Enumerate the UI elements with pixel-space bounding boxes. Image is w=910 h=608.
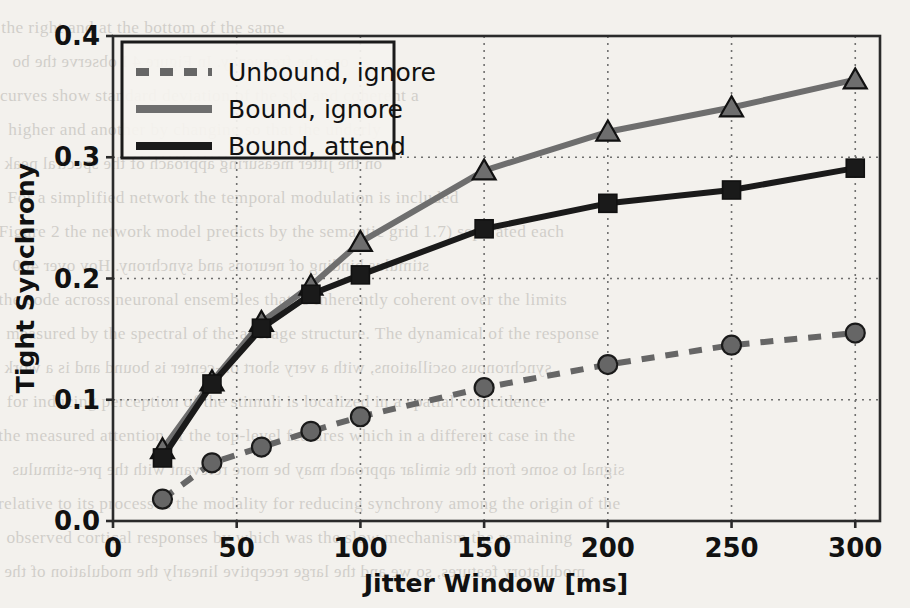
legend-item-label: Bound, ignore (228, 95, 403, 124)
legend-item-label: Bound, attend (228, 132, 406, 161)
data-point-square (475, 220, 493, 238)
x-tick-label: 150 (457, 533, 511, 563)
data-point-square (351, 266, 369, 284)
data-point-circle (202, 453, 221, 472)
x-tick-label: 0 (104, 533, 122, 563)
x-tick-labels: 050100150200250300 (104, 533, 882, 563)
series-line (162, 333, 855, 499)
chart-figure: the right and at the bottom of the sameo… (0, 0, 910, 608)
data-point-circle (475, 378, 494, 397)
data-point-square (599, 194, 617, 212)
data-point-square (153, 449, 171, 467)
legend-item-label: Unbound, ignore (228, 58, 436, 87)
x-tick-label: 300 (828, 533, 882, 563)
x-tick-label: 250 (704, 533, 758, 563)
series-line (162, 168, 855, 458)
y-tick-label: 0.1 (54, 385, 100, 415)
data-point-circle (301, 422, 320, 441)
x-tick-label: 100 (333, 533, 387, 563)
y-tick-label: 0.3 (54, 142, 100, 172)
data-point-circle (722, 336, 741, 355)
legend: Unbound, ignoreBound, ignoreBound, atten… (122, 42, 436, 161)
x-axis-label: Jitter Window [ms] (362, 569, 628, 598)
y-tick-label: 0.0 (54, 506, 100, 536)
y-tick-label: 0.2 (54, 264, 100, 294)
data-point-square (302, 285, 320, 303)
data-point-circle (598, 355, 617, 374)
data-point-square (846, 159, 864, 177)
x-tick-label: 200 (581, 533, 635, 563)
data-point-square (723, 181, 741, 199)
series-unbound-ignore (153, 324, 865, 509)
y-axis-label: Tight Synchrony (11, 163, 40, 393)
data-point-circle (351, 407, 370, 426)
y-tick-labels: 0.00.10.20.30.4 (54, 21, 100, 536)
y-tick-label: 0.4 (54, 21, 100, 51)
chart-svg: 050100150200250300 0.00.10.20.30.4 Jitte… (0, 0, 910, 608)
data-point-square (203, 375, 221, 393)
data-point-circle (153, 490, 172, 509)
data-point-circle (846, 324, 865, 343)
data-point-square (252, 319, 270, 337)
x-tick-label: 50 (219, 533, 255, 563)
data-point-circle (252, 438, 271, 457)
